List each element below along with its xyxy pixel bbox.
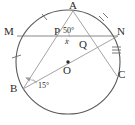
geometry-figure-canvas: A M N B C P Q O 50° x 15° xyxy=(0,0,135,125)
angle-label-15: 15° xyxy=(38,82,49,90)
point-label-a: A xyxy=(69,0,77,11)
point-label-p: P xyxy=(54,26,60,37)
angle-callout-arrow-b xyxy=(25,77,37,82)
geometry-diagram-svg xyxy=(0,0,135,125)
arc-tick-nc xyxy=(112,47,121,53)
angle-label-x: x xyxy=(65,38,69,46)
point-label-b: B xyxy=(10,83,17,94)
arc-tick-an xyxy=(99,13,108,21)
point-label-m: M xyxy=(4,26,14,37)
center-label-o: O xyxy=(63,65,71,76)
chord-ab xyxy=(23,11,73,89)
point-label-n: N xyxy=(117,26,125,37)
point-label-c: C xyxy=(118,69,125,80)
angle-label-50: 50° xyxy=(63,27,74,35)
point-label-q: Q xyxy=(79,39,87,50)
